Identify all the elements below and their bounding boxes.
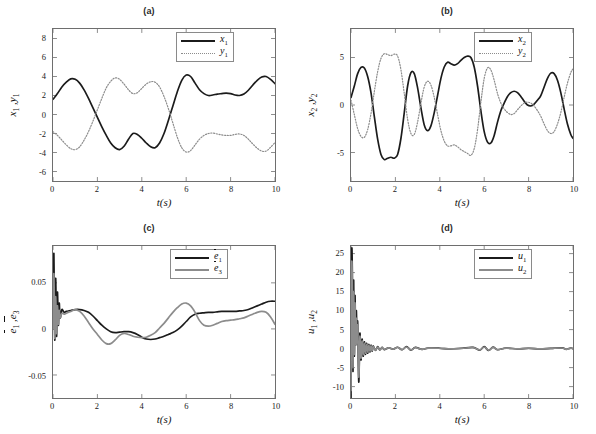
y-tick-label: 0.05 — [31, 277, 46, 287]
panel-d-legend: u1 u2 — [474, 249, 532, 279]
x-tick-label: 6 — [482, 401, 486, 411]
x-tick-label: 2 — [393, 184, 397, 194]
y-tick-label: 0 — [340, 100, 344, 110]
y-tick-label: 0 — [42, 110, 46, 120]
y-tick-label: 5 — [340, 325, 344, 335]
panel-c-title: (c) — [0, 223, 298, 233]
y-tick-label: 10 — [336, 305, 345, 315]
panel-d-plot-area — [350, 245, 574, 399]
y-tick-label: -5 — [337, 148, 344, 158]
legend-label-e3: e3 — [214, 263, 222, 277]
legend-key-x1 — [181, 40, 215, 42]
legend-entry-e3: e3 — [175, 265, 222, 275]
panel-d-svg — [351, 246, 573, 398]
x-tick-label: 10 — [570, 184, 579, 194]
legend-entry-y2: y2 — [479, 48, 526, 58]
panel-c-plot-area — [52, 245, 276, 399]
panel-b-title: (b) — [298, 6, 596, 16]
y-tick-label: -2 — [39, 129, 46, 139]
legend-key-e3 — [175, 269, 209, 271]
x-tick-label: 0 — [50, 184, 54, 194]
y-tick-label: 0 — [340, 344, 344, 354]
x-tick-label: 6 — [482, 184, 486, 194]
series-x1 — [53, 75, 275, 150]
x-tick-label: 2 — [393, 401, 397, 411]
figure-grid: (a) 86420-2-4-6 0246810 x1 ,y1 t(s) x1 y… — [0, 0, 596, 434]
x-tick-label: 0 — [50, 401, 54, 411]
series-x2 — [351, 56, 573, 160]
x-tick-label: 0 — [348, 401, 352, 411]
legend-entry-y1: y1 — [181, 48, 228, 58]
x-tick-label: 8 — [229, 184, 233, 194]
legend-label-y1: y1 — [220, 46, 228, 60]
y-tick-label: 20 — [336, 267, 345, 277]
y-tick-label: 4 — [42, 71, 46, 81]
x-tick-label: 4 — [139, 401, 143, 411]
panel-a-x-axis-title: t(s) — [52, 196, 276, 208]
panel-b: (b) 50-5 0246810 x2 ,y2 t(s) x2 y2 — [298, 0, 596, 217]
x-tick-label: 10 — [272, 184, 281, 194]
panel-a-svg — [53, 29, 275, 181]
series-e3 — [53, 274, 275, 345]
series-e1 — [53, 253, 275, 340]
panel-d-y-axis-title: u1 ,u2 — [304, 245, 320, 399]
y-tick-label: -4 — [39, 148, 46, 158]
panel-a-y-axis-title: x1 ,y1 — [6, 28, 22, 182]
panel-a: (a) 86420-2-4-6 0246810 x1 ,y1 t(s) x1 y… — [0, 0, 298, 217]
panel-b-plot-area — [350, 28, 574, 182]
panel-c: (c) 0.050-0.05 0246810 e1 ,e3 t(s) e1 e3 — [0, 217, 298, 434]
x-tick-label: 10 — [272, 401, 281, 411]
x-tick-label: 8 — [229, 401, 233, 411]
y-tick-label: 2 — [42, 90, 46, 100]
y-tick-label: 25 — [336, 248, 345, 258]
legend-key-u1 — [479, 257, 513, 259]
x-tick-label: 8 — [527, 401, 531, 411]
x-tick-label: 6 — [184, 401, 188, 411]
y-tick-label: 5 — [340, 52, 344, 62]
panel-c-svg — [53, 246, 275, 398]
x-tick-label: 0 — [348, 184, 352, 194]
panel-c-x-axis-title: t(s) — [52, 413, 276, 425]
x-tick-label: 8 — [527, 184, 531, 194]
panel-d-x-axis-title: t(s) — [350, 413, 574, 425]
y-tick-label: -6 — [39, 167, 46, 177]
panel-b-legend: x2 y2 — [474, 32, 532, 62]
legend-key-e1 — [175, 257, 209, 259]
legend-key-y2 — [479, 53, 513, 54]
y-tick-label: -10 — [333, 382, 344, 392]
x-tick-label: 4 — [437, 184, 441, 194]
y-tick-label: 8 — [42, 33, 46, 43]
y-tick-label: 6 — [42, 52, 46, 62]
y-tick-label: -0.05 — [28, 371, 46, 381]
panel-b-x-axis-title: t(s) — [350, 196, 574, 208]
y-tick-label: -5 — [337, 363, 344, 373]
legend-label-u2: u2 — [518, 263, 526, 277]
panel-a-title: (a) — [0, 6, 298, 16]
legend-key-u2 — [479, 269, 513, 271]
panel-d-title: (d) — [298, 223, 596, 233]
panel-c-legend: e1 e3 — [170, 249, 228, 279]
legend-label-y2: y2 — [518, 46, 526, 60]
panel-b-y-axis-title: x2 ,y2 — [304, 28, 320, 182]
legend-key-y1 — [181, 53, 215, 54]
x-tick-label: 10 — [570, 401, 579, 411]
x-tick-label: 6 — [184, 184, 188, 194]
y-tick-label: 15 — [336, 286, 345, 296]
y-tick-label: 0 — [42, 324, 46, 334]
panel-d: (d) 2520151050-5-10 0246810 u1 ,u2 t(s) … — [298, 217, 596, 434]
x-tick-label: 2 — [95, 401, 99, 411]
legend-entry-u2: u2 — [479, 265, 526, 275]
x-tick-label: 4 — [437, 401, 441, 411]
x-tick-label: 4 — [139, 184, 143, 194]
series-y1 — [53, 78, 275, 152]
panel-a-plot-area — [52, 28, 276, 182]
series-u2 — [351, 261, 573, 390]
panel-b-svg — [351, 29, 573, 181]
panel-a-legend: x1 y1 — [176, 32, 234, 62]
series-u1 — [351, 248, 573, 398]
x-tick-label: 2 — [95, 184, 99, 194]
panel-c-y-axis-title: e1 ,e3 — [6, 245, 22, 399]
legend-key-x2 — [479, 40, 513, 42]
series-y2 — [351, 54, 573, 156]
